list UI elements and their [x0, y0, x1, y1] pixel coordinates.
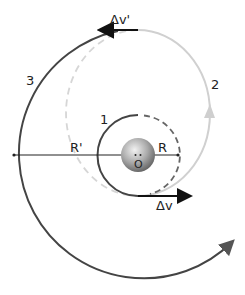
label-delta-v-prime: Δv' [110, 12, 130, 27]
diagram-canvas: Δv' 3 2 1 R' R O Δv [0, 0, 245, 295]
radius-endpoint-inner [176, 153, 179, 156]
orbit-2-direction-arrow-icon [204, 104, 215, 118]
radius-endpoint-outer [12, 153, 15, 156]
center-point-dot-2 [140, 154, 142, 156]
label-delta-v: Δv [156, 198, 173, 213]
label-orbit-2: 2 [211, 77, 219, 92]
transfer-orbit-2 [138, 30, 210, 196]
hohmann-transfer-diagram: Δv' 3 2 1 R' R O Δv [0, 0, 245, 295]
center-point-dot-1 [135, 154, 137, 156]
label-radius-inner: R [158, 140, 167, 155]
label-radius-outer: R' [70, 140, 83, 155]
label-center-o: O [134, 158, 143, 171]
label-orbit-3: 3 [26, 73, 34, 88]
label-orbit-1: 1 [100, 112, 108, 127]
